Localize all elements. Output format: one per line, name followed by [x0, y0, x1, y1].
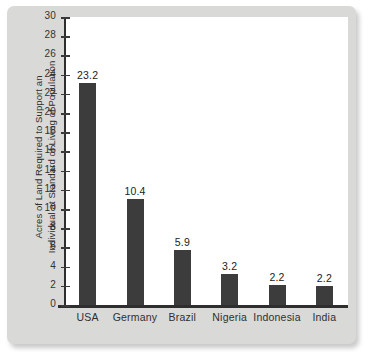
x-axis-category-label: Brazil [159, 311, 206, 323]
bar-group[interactable]: 23.2 [79, 69, 96, 305]
y-axis-tick-mark [61, 113, 70, 115]
y-axis-tick-mark [61, 94, 70, 96]
y-axis-tick-label: 0 [50, 298, 56, 309]
bar-group[interactable]: 2.2 [316, 272, 333, 305]
y-axis-tick-mark [61, 190, 70, 192]
y-axis-tick-mark [61, 247, 70, 249]
y-axis-tick-mark [61, 228, 70, 230]
y-axis-line [64, 17, 66, 306]
y-axis-tick-mark [61, 171, 70, 173]
bar-value-label: 5.9 [175, 236, 190, 248]
x-axis-labels: USAGermanyBrazilNigeriaIndonesiaIndia [64, 311, 348, 333]
y-axis-title: Acres of Land Required to Support an Ind… [32, 23, 58, 291]
bar-rect[interactable] [316, 286, 333, 305]
bar-value-label: 2.2 [269, 271, 284, 283]
x-axis-category-label: Indonesia [253, 311, 300, 323]
y-axis-tick-mark [61, 17, 70, 19]
plot-area [64, 17, 348, 305]
y-axis-title-line-1: Acres of Land Required to Support an [32, 23, 45, 291]
y-axis-tick-label: 30 [44, 10, 56, 21]
x-axis-line [58, 305, 348, 308]
bar-rect[interactable] [221, 274, 238, 305]
bar-rect[interactable] [79, 83, 96, 305]
y-axis-title-line-2: Individual at Standard of Living of Popu… [45, 23, 58, 291]
bar-group[interactable]: 3.2 [221, 260, 238, 305]
y-axis-tick-mark [61, 132, 70, 134]
bar-value-label: 10.4 [124, 185, 145, 197]
bar-value-label: 3.2 [222, 260, 237, 272]
chart-card: 024681012141618202224262830 Acres of Lan… [7, 6, 356, 344]
y-axis-tick-mark [61, 305, 70, 307]
bar-rect[interactable] [127, 199, 144, 305]
y-axis-tick-mark [61, 36, 70, 38]
x-axis-category-label: Germany [111, 311, 158, 323]
bar-rect[interactable] [174, 250, 191, 305]
y-axis-tick-mark [61, 286, 70, 288]
y-axis-tick-mark [61, 267, 70, 269]
x-axis-category-label: India [301, 311, 348, 323]
bar-group[interactable]: 2.2 [269, 271, 286, 305]
bar-value-label: 23.2 [77, 69, 98, 81]
bar-rect[interactable] [269, 285, 286, 305]
y-axis-tick-mark [61, 75, 70, 77]
x-axis-category-label: USA [64, 311, 111, 323]
bar-group[interactable]: 10.4 [127, 185, 144, 305]
y-axis-tick-mark [61, 209, 70, 211]
x-axis-category-label: Nigeria [206, 311, 253, 323]
bar-value-label: 2.2 [317, 272, 332, 284]
bar-group[interactable]: 5.9 [174, 236, 191, 305]
y-axis-tick-mark [61, 151, 70, 153]
y-axis-tick-mark [61, 55, 70, 57]
